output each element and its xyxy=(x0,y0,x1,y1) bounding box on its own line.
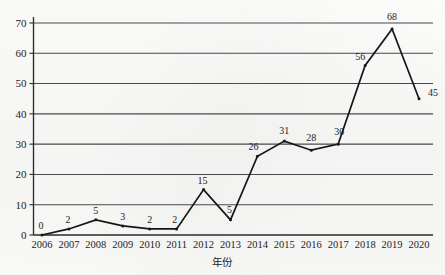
data-point-2015 xyxy=(283,140,286,143)
x-tick-label-2020: 2020 xyxy=(409,239,430,250)
data-point-2020 xyxy=(418,97,421,100)
x-tick-label-2016: 2016 xyxy=(301,239,322,250)
data-label-2006: 0 xyxy=(39,220,44,231)
x-tick-label-2011: 2011 xyxy=(166,239,187,250)
data-label-2009: 3 xyxy=(120,211,125,222)
y-tick-label-20: 20 xyxy=(16,168,28,180)
y-tick-label-60: 60 xyxy=(16,47,28,59)
y-tick-label-50: 50 xyxy=(16,77,28,89)
y-tick-label-40: 40 xyxy=(16,108,28,120)
data-label-2008: 5 xyxy=(93,205,98,216)
data-point-2011 xyxy=(175,227,178,230)
data-point-2010 xyxy=(148,227,151,230)
data-label-2010: 2 xyxy=(147,214,152,225)
data-point-2019 xyxy=(391,28,394,31)
x-tick-label-2014: 2014 xyxy=(247,239,269,250)
y-tick-label-30: 30 xyxy=(16,138,28,150)
data-label-2016: 28 xyxy=(306,132,316,143)
chart-screenshot: 010203040506070 200620072008200920102011… xyxy=(0,0,445,275)
x-axis-tick-labels: 2006200720082009201020112012201320142015… xyxy=(32,239,430,250)
x-tick-label-2019: 2019 xyxy=(382,239,403,250)
x-tick-label-2010: 2010 xyxy=(139,239,160,250)
data-point-2007 xyxy=(67,227,70,230)
data-point-2009 xyxy=(121,224,124,227)
data-label-2014: 26 xyxy=(248,141,258,152)
gridlines xyxy=(34,23,434,205)
x-tick-label-2007: 2007 xyxy=(58,239,79,250)
data-point-2006 xyxy=(41,234,44,237)
data-point-2013 xyxy=(229,218,232,221)
y-tick-label-10: 10 xyxy=(16,199,28,211)
data-point-2014 xyxy=(256,155,259,158)
x-tick-label-2015: 2015 xyxy=(274,239,295,250)
data-label-2020: 45 xyxy=(428,87,438,98)
data-label-2018: 56 xyxy=(355,51,365,62)
data-point-2012 xyxy=(202,188,205,191)
data-point-labels: 02532215526312830566845 xyxy=(39,11,439,231)
data-point-2018 xyxy=(364,64,367,67)
data-label-2013: 5 xyxy=(227,204,232,215)
data-label-2019: 68 xyxy=(387,11,397,22)
data-label-2015: 31 xyxy=(279,125,289,136)
x-tick-label-2018: 2018 xyxy=(355,239,376,250)
x-tick-label-2009: 2009 xyxy=(112,239,133,250)
data-label-2012: 15 xyxy=(198,175,208,186)
y-tick-label-0: 0 xyxy=(21,229,27,241)
y-axis-tick-labels: 010203040506070 xyxy=(16,17,28,241)
x-tick-label-2013: 2013 xyxy=(220,239,241,250)
x-axis-title: 年份 xyxy=(212,256,233,268)
data-point-2017 xyxy=(337,143,340,146)
axis-lines xyxy=(34,17,434,235)
x-tick-label-2017: 2017 xyxy=(328,239,349,250)
data-point-2016 xyxy=(310,149,313,152)
x-tick-label-2008: 2008 xyxy=(85,239,106,250)
y-tick-label-70: 70 xyxy=(16,17,28,29)
data-point-2008 xyxy=(94,218,97,221)
data-label-2007: 2 xyxy=(65,214,70,225)
x-tick-label-2012: 2012 xyxy=(193,239,214,250)
x-tick-label-2006: 2006 xyxy=(32,239,53,250)
data-label-2011: 2 xyxy=(172,214,177,225)
line-chart: 010203040506070 200620072008200920102011… xyxy=(0,0,445,275)
data-label-2017: 30 xyxy=(334,126,344,137)
